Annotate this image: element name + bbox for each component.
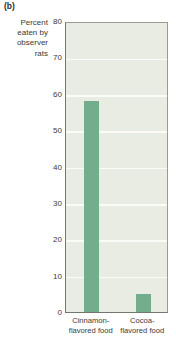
gridline — [66, 95, 167, 97]
y-axis-tick-label: 20 — [18, 236, 62, 244]
y-axis-tick-label: 80 — [18, 18, 62, 26]
y-axis-tick-label: 70 — [18, 54, 62, 62]
y-axis-tick-label: 40 — [18, 164, 62, 172]
x-axis-category-label: Cocoa-flavored food — [111, 316, 173, 335]
y-axis-tick-label: 50 — [18, 127, 62, 135]
y-axis-tick-label: 10 — [18, 273, 62, 281]
x-axis-category-labels: Cinnamon-flavored foodCocoa-flavored foo… — [52, 316, 176, 346]
gridline — [66, 240, 167, 242]
y-axis-tick-labels: 01020304050607080 — [14, 22, 62, 313]
bar — [84, 101, 99, 312]
y-axis-tick-label: 60 — [18, 91, 62, 99]
chart-plot — [65, 22, 168, 313]
gridline — [66, 277, 167, 279]
gridline — [66, 59, 167, 61]
gridline — [66, 131, 167, 133]
x-axis-label-line: Cocoa- — [111, 316, 173, 326]
bar — [136, 294, 151, 312]
gridline — [66, 168, 167, 170]
gridline — [66, 204, 167, 206]
panel-label: (b) — [4, 1, 15, 11]
x-axis-label-line: flavored food — [111, 326, 173, 336]
plot-area — [65, 22, 168, 313]
y-axis-tick-label: 30 — [18, 200, 62, 208]
